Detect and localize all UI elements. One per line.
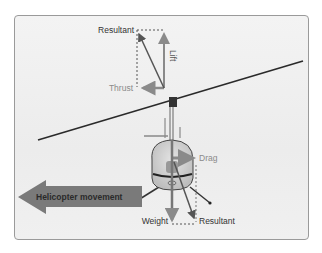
label-resultant-bottom: Resultant (199, 216, 236, 226)
resultant-arrow-top (139, 34, 164, 88)
rotor-hub (169, 97, 177, 107)
label-thrust: Thrust (109, 83, 134, 93)
label-drag: Drag (199, 153, 218, 163)
label-helicopter-movement: Helicopter movement (36, 192, 123, 202)
label-lift: Lift (168, 50, 178, 62)
top-force-vectors (137, 30, 164, 88)
skid-right (190, 187, 210, 203)
label-resultant-top: Resultant (98, 25, 135, 35)
label-weight: Weight (142, 216, 169, 226)
helicopter-force-diagram: Resultant Lift Thrust Drag Weight Result… (0, 0, 322, 253)
